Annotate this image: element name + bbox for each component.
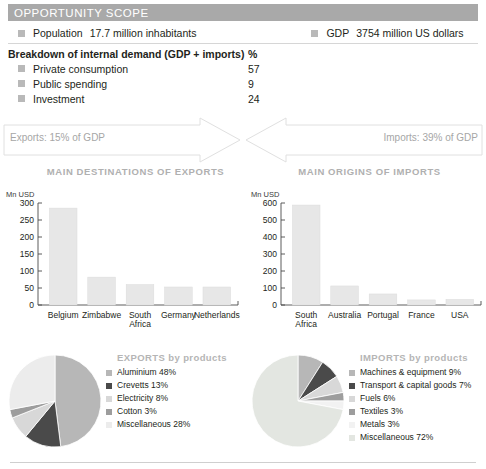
x-axis-category-label: Africa <box>129 319 151 329</box>
exports-destinations-title: MAIN DESTINATIONS OF EXPORTS <box>28 166 243 177</box>
bar <box>446 299 474 305</box>
imports-products-pie <box>249 352 347 450</box>
square-bullet-icon <box>18 80 25 87</box>
legend-item: Fuels 6% <box>349 392 486 405</box>
x-axis-category-label: Germany <box>161 310 197 320</box>
exports-products-legend: EXPORTS by products Aluminium 48%Crevett… <box>106 352 246 431</box>
exports-legend-title: EXPORTS by products <box>117 352 246 363</box>
fact-gdp-value: 3754 million US dollars <box>356 27 463 39</box>
legend-swatch-icon <box>106 396 112 402</box>
legend-label: Electricity 8% <box>117 392 168 405</box>
bar <box>331 286 359 305</box>
fact-population: Population 17.7 million inhabitants <box>18 27 196 39</box>
pie-slice <box>55 355 101 447</box>
y-axis-tick-label: 0 <box>29 300 34 310</box>
legend-item: Electricity 8% <box>106 392 246 405</box>
table-row: Private consumption 57 <box>8 61 478 76</box>
legend-item: Crevetts 13% <box>106 379 246 392</box>
x-axis-category-label: Belgium <box>48 310 79 320</box>
legend-swatch-icon <box>349 422 355 428</box>
x-axis-category-label: USA <box>451 310 469 320</box>
exports-products-pie <box>6 352 104 450</box>
x-axis-category-label: Africa <box>295 319 317 329</box>
legend-item: Metals 3% <box>349 418 486 431</box>
y-axis-tick-label: 0 <box>272 300 277 310</box>
fact-population-value: 17.7 million inhabitants <box>90 27 197 39</box>
imports-legend-title: IMPORTS by products <box>360 352 486 363</box>
y-axis-tick-label: 300 <box>20 198 34 208</box>
opportunity-scope-header: OPPORTUNITY SCOPE <box>8 4 478 21</box>
breakdown-row-label: Private consumption <box>33 63 128 75</box>
breakdown-row-label: Investment <box>33 93 84 105</box>
footer-divider <box>10 462 476 463</box>
x-axis-category-label: Netherlands <box>194 310 240 320</box>
legend-label: Textiles 3% <box>360 405 403 418</box>
table-row: Investment 24 <box>8 91 478 106</box>
x-axis-category-label: Zimbabwe <box>82 310 121 320</box>
legend-label: Transport & capital goods 7% <box>360 379 471 392</box>
legend-item: Aluminium 48% <box>106 366 246 379</box>
imports-origins-title: MAIN ORIGINS OF IMPORTS <box>262 166 477 177</box>
legend-label: Cotton 3% <box>117 405 157 418</box>
y-axis-tick-label: 150 <box>20 249 34 259</box>
bar <box>126 285 154 305</box>
legend-label: Miscellaneous 72% <box>360 431 433 444</box>
legend-swatch-icon <box>106 383 112 389</box>
y-axis-tick-label: 200 <box>263 266 277 276</box>
square-bullet-icon <box>18 95 25 102</box>
legend-item: Textiles 3% <box>349 405 486 418</box>
breakdown-heading: Breakdown of internal demand (GDP + impo… <box>8 48 248 60</box>
breakdown-header-row: Breakdown of internal demand (GDP + impo… <box>8 46 478 61</box>
legend-swatch-icon <box>349 409 355 415</box>
y-axis-tick-label: 50 <box>25 283 35 293</box>
legend-swatch-icon <box>349 383 355 389</box>
y-axis-tick-label: 200 <box>20 232 34 242</box>
table-row: Public spending 9 <box>8 76 478 91</box>
y-axis-tick-label: 500 <box>263 215 277 225</box>
bar <box>49 208 77 305</box>
fact-gdp: GDP 3754 million US dollars <box>311 27 463 39</box>
bar <box>165 287 193 305</box>
page-title: OPPORTUNITY SCOPE <box>8 7 149 19</box>
fact-gdp-label: GDP <box>326 27 349 39</box>
breakdown-row-label: Public spending <box>33 78 107 90</box>
breakdown-row-value: 9 <box>248 78 308 90</box>
legend-item: Transport & capital goods 7% <box>349 379 486 392</box>
x-axis-category-label: France <box>408 310 435 320</box>
pie-slice <box>9 355 55 410</box>
bar <box>88 277 116 305</box>
legend-item: Miscellaneous 72% <box>349 431 486 444</box>
exports-share-label: Exports: 15% of GDP <box>10 132 105 143</box>
fact-population-label: Population <box>33 27 83 39</box>
y-axis-tick-label: 600 <box>263 198 277 208</box>
legend-swatch-icon <box>349 435 355 441</box>
legend-item: Miscellaneous 28% <box>106 418 246 431</box>
legend-label: Fuels 6% <box>360 392 395 405</box>
legend-swatch-icon <box>106 422 112 428</box>
square-bullet-icon <box>18 65 25 72</box>
key-facts-row: Population 17.7 million inhabitants GDP … <box>8 24 478 42</box>
imports-share-label: Imports: 39% of GDP <box>384 132 478 143</box>
legend-item: Machines & equipment 9% <box>349 366 486 379</box>
y-axis-tick-label: 300 <box>263 249 277 259</box>
legend-item: Cotton 3% <box>106 405 246 418</box>
facts-divider <box>8 43 478 44</box>
y-axis-tick-label: 100 <box>20 266 34 276</box>
bar <box>369 294 397 305</box>
bar <box>203 287 231 305</box>
breakdown-row-value: 24 <box>248 93 308 105</box>
legend-label: Crevetts 13% <box>117 379 168 392</box>
legend-label: Machines & equipment 9% <box>360 366 461 379</box>
y-axis-tick-label: 400 <box>263 232 277 242</box>
internal-demand-breakdown: Breakdown of internal demand (GDP + impo… <box>8 46 478 106</box>
x-axis-category-label: Portugal <box>367 310 399 320</box>
exports-destinations-barchart: 050100150200250300BelgiumZimbabweSouthAf… <box>0 197 243 337</box>
legend-label: Miscellaneous 28% <box>117 418 190 431</box>
y-axis-tick-label: 250 <box>20 215 34 225</box>
x-axis-category-label: Australia <box>328 310 361 320</box>
square-bullet-icon <box>311 30 318 37</box>
square-bullet-icon <box>18 30 25 37</box>
imports-products-legend: IMPORTS by products Machines & equipment… <box>349 352 486 444</box>
imports-origins-barchart: 0100200300400500600SouthAfricaAustraliaP… <box>243 197 486 337</box>
breakdown-unit-header: % <box>248 48 308 60</box>
